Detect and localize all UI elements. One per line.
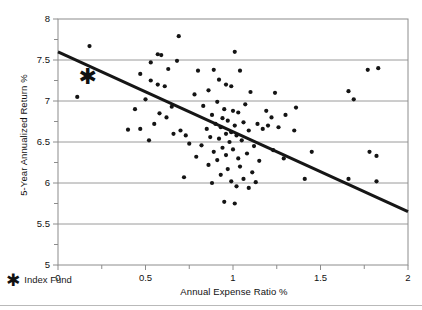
data-point [212,68,216,72]
data-point [234,133,238,137]
data-point [187,142,191,146]
data-point [147,138,151,142]
data-point [157,111,161,115]
data-point [255,122,259,126]
index-fund-star: ✱ [79,64,97,89]
data-point [254,180,258,184]
data-point [352,97,356,101]
data-point [133,107,137,111]
data-point [224,132,228,136]
data-point [192,92,196,96]
data-point [269,115,273,119]
data-point [206,163,210,167]
data-point [171,132,175,136]
data-point [126,128,130,132]
data-point [166,67,170,71]
data-point [310,150,314,154]
data-point [236,110,240,114]
data-point [138,72,142,76]
x-tick-label: 0.5 [131,272,161,283]
y-tick-label: 7 [24,95,50,106]
data-point [294,105,298,109]
data-point [229,84,233,88]
y-tick-label: 6.5 [24,136,50,147]
data-point [220,116,224,120]
y-axis-label-container: 5-Year Annualized Return % [2,0,24,270]
legend: ✱ Index Fund [6,274,72,285]
y-tick-label: 6 [24,177,50,188]
data-point [238,165,242,169]
data-point [215,158,219,162]
data-point [210,181,214,185]
data-point [376,66,380,70]
data-point [178,128,182,132]
y-tick-label: 7.5 [24,54,50,65]
data-point [159,53,163,57]
data-point [175,59,179,63]
data-point [229,130,233,134]
data-point [303,177,307,181]
data-point [152,122,156,126]
data-point [217,137,221,141]
data-point [241,120,245,124]
plot-area: ✱ [0,0,422,310]
data-point [75,95,79,99]
data-point [346,89,350,93]
data-point [276,125,280,129]
data-point [233,50,237,54]
data-point [196,69,200,73]
data-point [250,170,254,174]
data-point [234,184,238,188]
data-point [163,84,167,88]
data-point [219,173,223,177]
x-tick-label: 1 [218,272,248,283]
x-tick-label: 1.5 [306,272,336,283]
data-point [245,151,249,155]
data-point [257,159,261,163]
data-point [222,107,226,111]
data-point [143,97,147,101]
data-point [206,88,210,92]
data-point [224,153,228,157]
grid-lines [58,60,408,224]
data-point [182,175,186,179]
data-point [222,200,226,204]
data-point [252,144,256,148]
y-tick-label: 8 [24,13,50,24]
data-point [374,154,378,158]
data-point [184,133,188,137]
tick-marks [53,19,408,270]
data-point [282,156,286,160]
data-point [227,140,231,144]
data-point [149,60,153,64]
y-tick-label: 5.5 [24,218,50,229]
data-point [219,125,223,129]
data-point [205,127,209,131]
data-point [201,104,205,108]
index-fund-star-marker: ✱ [79,64,97,89]
data-point [177,34,181,38]
data-point [208,135,212,139]
data-point [261,127,265,131]
data-point [164,115,168,119]
data-point [217,78,221,82]
data-point [240,138,244,142]
x-axis-label: Annual Expense Ratio % [0,286,422,297]
data-point [156,52,160,56]
data-point [374,179,378,183]
data-point [170,105,174,109]
data-point [236,156,240,160]
data-point [231,109,235,113]
data-point [273,91,277,95]
data-point [87,44,91,48]
data-point [231,147,235,151]
data-point [233,201,237,205]
data-point [247,128,251,132]
data-point [247,186,251,190]
scatter-chart-figure: 5-Year Annualized Return % Annual Expens… [0,0,422,310]
data-point [220,146,224,150]
data-point [215,100,219,104]
x-tick-label: 2 [393,272,422,283]
data-point [229,179,233,183]
legend-label: Index Fund [24,274,72,285]
